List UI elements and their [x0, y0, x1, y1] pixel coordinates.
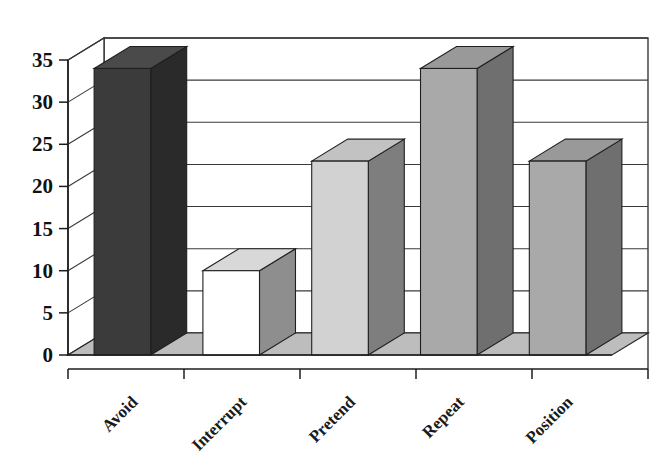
bar-repeat: [421, 46, 514, 355]
bar-pretend: [312, 139, 405, 355]
y-tick-label: 10: [32, 259, 53, 283]
bar-avoid: [94, 46, 187, 355]
y-tick-label: 20: [32, 174, 53, 198]
bar-chart: 05101520253035 AvoidInterruptPretendRepe…: [0, 0, 671, 468]
bar-interrupt: [203, 249, 296, 355]
chart-canvas: 05101520253035 AvoidInterruptPretendRepe…: [0, 0, 671, 468]
y-tick-label: 35: [32, 48, 53, 72]
y-tick-label: 25: [32, 132, 53, 156]
y-tick-label: 5: [43, 301, 54, 325]
y-tick-label: 0: [43, 343, 54, 367]
y-tick-label: 15: [32, 217, 53, 241]
y-tick-label: 30: [32, 90, 53, 114]
bar-position: [529, 139, 622, 355]
